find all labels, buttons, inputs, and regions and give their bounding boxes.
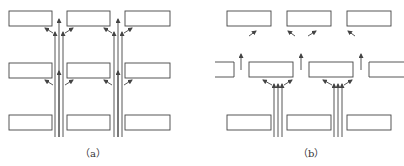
panel-b-top-diagonals	[249, 31, 355, 36]
panel-a-blocks	[9, 11, 170, 130]
caption-b: （b）	[298, 145, 324, 160]
figure: （a） （b）	[0, 0, 404, 166]
panel-a-branches	[45, 28, 132, 85]
panel-a-flow-left	[55, 19, 63, 137]
diagram-canvas	[0, 0, 404, 166]
panel-b-fan	[263, 80, 352, 85]
panel-a-flow-right	[114, 19, 122, 137]
panel-b-blocks	[215, 11, 404, 130]
panel-b-flow-left	[274, 84, 282, 137]
caption-a: （a）	[80, 145, 106, 160]
panel-b-flow-right	[334, 84, 342, 137]
